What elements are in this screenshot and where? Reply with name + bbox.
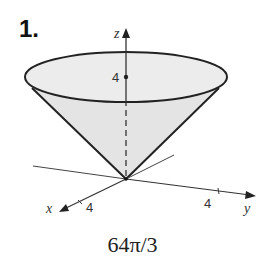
y-label: y — [242, 201, 251, 216]
x-label: x — [45, 201, 53, 216]
y-arrow-icon — [245, 191, 256, 199]
origin-dot — [124, 177, 128, 181]
figure-panel: 1. z 4 4 y 4 x 64π/3 — [0, 0, 265, 278]
z-arrow-icon — [122, 28, 130, 38]
y-tick-label: 4 — [204, 196, 211, 211]
z-tick-dot — [124, 75, 128, 79]
answer-caption: 64π/3 — [0, 232, 265, 258]
y-tick — [218, 188, 219, 194]
x-tick-label: 4 — [86, 200, 93, 215]
x-arrow-icon — [59, 204, 69, 212]
x-axis — [64, 179, 126, 209]
z-tick-label: 4 — [112, 70, 119, 85]
y-axis — [126, 179, 250, 195]
y-axis-back — [33, 166, 126, 179]
z-label: z — [113, 26, 120, 41]
